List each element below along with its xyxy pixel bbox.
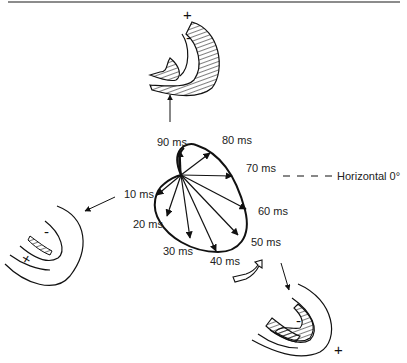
vectorcardiogram-diagram: + - - + - + 90 ms 80 ms 70 ms 60 ms 50 m…: [0, 0, 407, 363]
heart-bottom-plus: +: [334, 341, 343, 358]
arrow-to-heart-left: [85, 197, 115, 211]
label-20ms: 20 ms: [133, 218, 163, 230]
heart-top: + -: [150, 6, 219, 95]
label-80ms: 80 ms: [222, 134, 252, 146]
vector-70ms: [181, 175, 232, 176]
label-50ms: 50 ms: [251, 236, 281, 248]
heart-bottom: - +: [252, 284, 343, 358]
arrow-to-heart-bottom: [281, 263, 289, 290]
heart-top-septum: [150, 58, 179, 81]
instantaneous-vectors: [157, 151, 246, 251]
label-40ms: 40 ms: [210, 255, 240, 267]
heart-bottom-minus: -: [296, 312, 301, 329]
heart-top-minus: -: [186, 29, 191, 46]
label-30ms: 30 ms: [163, 245, 193, 257]
vector-60ms: [181, 175, 246, 209]
heart-bottom-outer: [252, 284, 332, 356]
label-10ms: 10 ms: [124, 188, 154, 200]
label-90ms: 90 ms: [157, 136, 187, 148]
heart-left: - +: [5, 206, 83, 285]
vector-50ms: [181, 175, 238, 235]
heart-left-minus: -: [44, 223, 49, 240]
label-60ms: 60 ms: [258, 205, 288, 217]
heart-left-plus: +: [19, 249, 35, 268]
horizontal-reference-label: Horizontal 0°: [337, 170, 400, 182]
heart-top-plus: +: [183, 6, 192, 23]
heart-top-hatched-wall: [150, 22, 219, 95]
vector-80ms: [181, 153, 210, 175]
label-70ms: 70 ms: [246, 162, 276, 174]
